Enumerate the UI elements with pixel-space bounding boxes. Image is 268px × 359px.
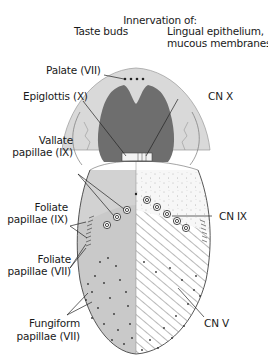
epiglottis bbox=[122, 153, 152, 161]
header-mucous-membranes: mucous membranes bbox=[167, 37, 268, 50]
label-cn-v: CN V bbox=[204, 317, 229, 330]
header-taste-buds: Taste buds bbox=[74, 25, 128, 38]
label-foliate-ix-2: papillae (IX) bbox=[0, 213, 68, 226]
label-cn-x: CN X bbox=[208, 90, 233, 103]
label-foliate-vii-1: Foliate bbox=[0, 253, 71, 266]
label-foliate-vii-2: papillae (VII) bbox=[0, 265, 71, 278]
header-lingual-epithelium: Lingual epithelium, bbox=[167, 25, 264, 38]
label-palate: Palate (VII) bbox=[46, 64, 101, 77]
label-foliate-ix-1: Foliate bbox=[0, 201, 68, 214]
label-fungiform-1: Fungiform bbox=[0, 317, 80, 330]
tongue-innervation-diagram bbox=[0, 0, 268, 359]
label-vallate-1: Vallate bbox=[0, 134, 73, 147]
label-fungiform-2: papillae (VII) bbox=[0, 330, 80, 343]
label-vallate-2: papillae (IX) bbox=[0, 146, 73, 159]
label-epiglottis: Epiglottis (X) bbox=[23, 90, 88, 103]
label-cn-ix: CN IX bbox=[219, 210, 247, 223]
